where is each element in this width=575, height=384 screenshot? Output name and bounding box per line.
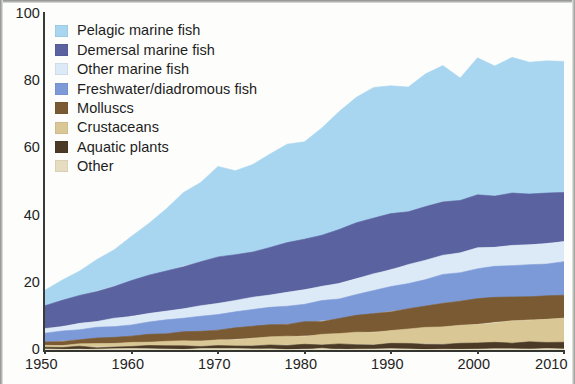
legend-item-label: Other marine fish <box>77 62 189 77</box>
legend-swatch-icon <box>55 141 68 153</box>
x-axis-tick-label: 2010 <box>535 356 568 372</box>
y-axis-tick-label: 20 <box>4 274 40 290</box>
page-edge-top <box>0 0 575 3</box>
legend-swatch-icon <box>55 83 68 95</box>
legend-swatch-icon <box>55 63 68 75</box>
legend-item-label: Other <box>77 159 114 174</box>
legend-item-label: Pelagic marine fish <box>77 23 200 38</box>
x-axis-tick-label: 1990 <box>371 356 404 372</box>
legend-item-label: Aquatic plants <box>77 140 169 155</box>
x-axis-tick-label: 1960 <box>112 356 145 372</box>
x-axis-tick-label: 1950 <box>25 356 58 372</box>
x-axis-tick-mark <box>563 350 565 354</box>
legend-swatch-icon <box>55 25 68 37</box>
legend-item-label: Molluscs <box>77 101 134 116</box>
y-axis-tick-label: 80 <box>4 72 40 88</box>
legend-item: Other <box>55 157 295 176</box>
x-axis-tick-mark <box>390 350 392 354</box>
y-axis-line <box>43 12 45 352</box>
legend-item-label: Freshwater/diadromous fish <box>77 82 257 97</box>
x-axis-tick-label: 1970 <box>198 356 231 372</box>
legend-swatch-icon <box>55 122 68 134</box>
x-axis-tick-mark <box>304 350 306 354</box>
legend-item: Freshwater/diadromous fish <box>55 79 295 98</box>
legend-item: Other marine fish <box>55 60 295 79</box>
y-axis-tick-label: 40 <box>4 207 40 223</box>
x-axis-tick-label: 1980 <box>285 356 318 372</box>
legend-swatch-icon <box>55 102 68 114</box>
legend-swatch-icon <box>55 160 68 172</box>
x-axis-tick-mark <box>131 350 133 354</box>
legend-item: Crustaceans <box>55 118 295 137</box>
y-axis-tick-label: 100 <box>4 5 40 21</box>
x-axis-tick-mark <box>217 350 219 354</box>
y-axis: 100806040200 <box>0 0 40 384</box>
legend-item: Aquatic plants <box>55 137 295 156</box>
legend-item: Demersal marine fish <box>55 40 295 59</box>
legend-item: Pelagic marine fish <box>55 21 295 40</box>
x-axis-tick-mark <box>477 350 479 354</box>
x-axis-tick-label: 2000 <box>458 356 491 372</box>
y-axis-tick-label: 0 <box>4 341 40 357</box>
legend-item-label: Crustaceans <box>77 120 159 135</box>
figure: 100806040200 195019601970198019902000201… <box>0 0 575 384</box>
chart-legend: Pelagic marine fishDemersal marine fishO… <box>55 21 295 176</box>
x-axis-tick-mark <box>44 350 46 354</box>
legend-item-label: Demersal marine fish <box>77 43 215 58</box>
y-axis-tick-label: 60 <box>4 139 40 155</box>
legend-swatch-icon <box>55 44 68 56</box>
legend-item: Molluscs <box>55 99 295 118</box>
